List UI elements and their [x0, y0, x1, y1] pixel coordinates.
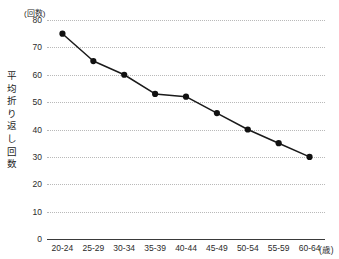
x-axis-tick-label: 45-49 [206, 243, 228, 253]
line-chart: (回数) 平均折り返し回数 01020304050607080 20-2425-… [0, 0, 339, 259]
x-axis-tick-label: 30-34 [113, 243, 135, 253]
y-axis-tick-label: 10 [33, 207, 42, 217]
x-axis-tick-label: 20-24 [52, 243, 74, 253]
y-axis-tick-label: 80 [33, 15, 42, 25]
data-point [59, 31, 65, 37]
y-axis-tick-label: 60 [33, 70, 42, 80]
y-axis-title: 平均折り返し回数 [5, 70, 19, 171]
y-axis-tick-label: 50 [33, 97, 42, 107]
plot-area: 01020304050607080 20-2425-2930-3435-3940… [47, 20, 325, 239]
data-point [214, 110, 220, 116]
data-point [121, 72, 127, 78]
data-point [152, 91, 158, 97]
x-axis-line [47, 239, 325, 240]
x-axis-tick-label: 40-44 [175, 243, 197, 253]
data-point [306, 154, 312, 160]
x-axis-unit-label: (歳) [319, 243, 334, 255]
y-axis-tick-label: 70 [33, 42, 42, 52]
x-axis-tick-label: 60-64 [299, 243, 321, 253]
x-axis-tick-label: 55-59 [268, 243, 290, 253]
y-axis-tick-label: 20 [33, 179, 42, 189]
y-axis-tick-label: 30 [33, 152, 42, 162]
data-point [183, 94, 189, 100]
data-point [276, 140, 282, 146]
y-axis-tick-label: 0 [37, 234, 42, 244]
data-point [90, 58, 96, 64]
data-series [47, 20, 325, 239]
y-axis-tick-label: 40 [33, 125, 42, 135]
x-axis-tick-label: 25-29 [82, 243, 104, 253]
x-axis-tick-label: 50-54 [237, 243, 259, 253]
x-axis-tick-label: 35-39 [144, 243, 166, 253]
data-point [245, 126, 251, 132]
